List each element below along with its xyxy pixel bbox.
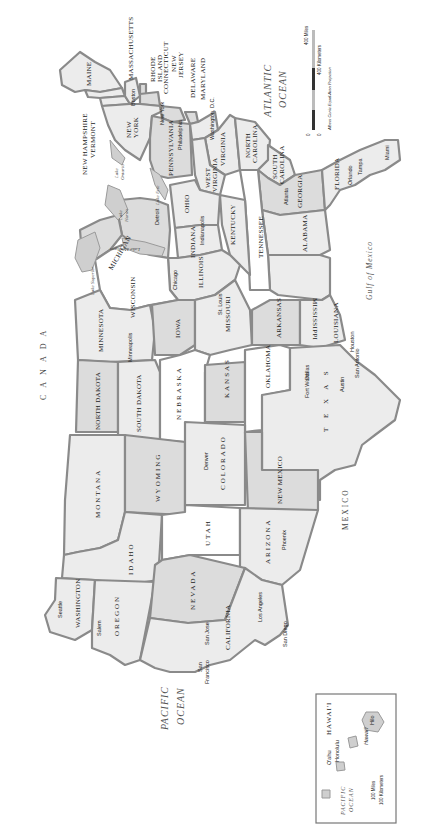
label-washington: WASHINGTON (75, 578, 82, 628)
city-los-angeles: Los Angeles (258, 592, 264, 622)
label-lake-superior: Lake Superior (90, 267, 95, 295)
label-mexico: MEXICO (342, 488, 350, 530)
hawaii-scale-km: 100 Kilometers (380, 775, 385, 805)
label-south-carolina-2: CAROLINA (279, 145, 286, 184)
city-seattle: Seattle (58, 601, 64, 618)
label-atlantic-2: OCEAN (278, 70, 288, 108)
label-lake-ontario-1: Lake (114, 168, 119, 178)
label-atlantic-1: ATLANTIC (263, 64, 273, 117)
city-indianapolis: Indianapolis (200, 216, 206, 245)
label-north-dakota: NORTH DAKOTA (95, 372, 102, 430)
city-philadelphia: Philadelphia (178, 120, 184, 150)
label-louisiana: LOUISIANA (333, 302, 340, 343)
label-colorado: COLORADO (220, 435, 227, 490)
label-mississippi: MISSISSIPPI (311, 298, 318, 340)
label-arkansas: ARKANSAS (276, 298, 283, 338)
label-ohio: OHIO (184, 194, 191, 213)
city-washington-dc: Washington, D.C. (210, 97, 216, 140)
label-kentucky: KENTUCKY (230, 204, 237, 245)
label-west-virginia-2: VIRGINIA (212, 158, 219, 192)
label-tennessee: TENNESSEE (258, 216, 265, 258)
label-florida: FLORIDA (334, 158, 341, 190)
label-south-dakota: SOUTH DAKOTA (136, 374, 143, 432)
label-gulf-of-mexico: Gulf of Mexico (366, 241, 374, 300)
label-california: CALIFORNIA (225, 605, 232, 650)
scale-miles-label: 400 Miles (305, 26, 310, 45)
scale-km-label: 400 Kilometers (318, 45, 323, 75)
city-phoenix: Phoenix (282, 530, 288, 550)
hawaii-honolulu: Honolulu (335, 740, 341, 762)
city-atlanta: Atlanta (284, 188, 290, 205)
label-lake-huron-1: Lake (118, 210, 123, 220)
city-boston: Boston (131, 89, 137, 106)
label-iowa: IOWA (175, 319, 182, 338)
label-new-york-2: YORK (133, 117, 140, 138)
label-new-hampshire: NEW HAMPSHIRE (82, 113, 89, 175)
label-virginia: VIRGINIA (220, 132, 227, 166)
hawaii-scale-miles: 100 Miles (372, 781, 377, 800)
label-pennsylvania: PENNSYLVANIA (168, 120, 175, 176)
label-north-carolina-2: CAROLINA (252, 124, 259, 163)
city-denver: Denver (204, 452, 210, 470)
hawaii-hilo: Hilo (370, 716, 376, 725)
label-minnesota: MINNESOTA (98, 309, 105, 352)
label-idaho: IDAHO (128, 542, 135, 575)
city-tampa: Tampa (358, 158, 364, 175)
label-kansas: KANSAS (224, 358, 231, 398)
label-nevada: NEVADA (190, 569, 197, 610)
label-connecticut: CONNECTICUT (163, 41, 170, 94)
label-lake-michigan: Lake Michigan (110, 247, 140, 252)
label-wyoming: WYOMING (155, 453, 162, 502)
label-arizona: ARIZONA (265, 519, 272, 565)
label-michigan: MICHIGAN (108, 235, 133, 272)
label-canada: CANADA (40, 324, 48, 400)
city-san-antonio: San Antonio (355, 348, 361, 378)
label-massachusetts: MASSACHUSETTS (128, 17, 135, 80)
city-fort-worth: Fort Worth (305, 372, 311, 398)
city-austin: Austin (340, 377, 346, 392)
hawaii-island-label: Hawai'i (364, 727, 370, 745)
city-san-diego: San Diego (283, 621, 289, 647)
label-maine: MAINE (86, 62, 93, 86)
city-new-york: New York (160, 102, 166, 125)
city-san-francisco-2: Francisco (205, 660, 211, 684)
label-new-jersey-2: JERSEY (178, 51, 185, 78)
city-miami: Miami (385, 145, 391, 160)
hawaii-title: HAWAI'I (326, 702, 333, 735)
label-montana: MONTANA (95, 469, 102, 518)
label-maryland: MARYLAND (200, 58, 207, 100)
city-chicago: Chicago (173, 270, 179, 290)
label-illinois: ILLINOIS (198, 256, 205, 288)
city-detroit: Detroit (155, 209, 161, 225)
label-lake-erie: Lake Erie (155, 185, 160, 205)
hawaii-ocean-2: OCEAN (348, 787, 354, 812)
city-san-francisco-1: San (198, 662, 204, 672)
city-minneapolis: Minneapolis (128, 333, 134, 362)
scale-projection: Albers Conic Equal-Area Projection (328, 67, 332, 130)
label-wisconsin: WISCONSIN (130, 276, 137, 318)
label-texas: T E X A S (323, 367, 330, 432)
hawaii-ocean-1: PACIFIC (340, 786, 346, 815)
label-alabama: ALABAMA (302, 215, 309, 253)
city-salem: Salem (97, 620, 103, 636)
label-utah: UTAH (205, 519, 212, 546)
label-indiana: INDIANA (190, 226, 197, 258)
label-pacific-1: PACIFIC (160, 686, 170, 730)
label-oklahoma: OKLAHOMA (265, 345, 272, 388)
label-nebraska: NEBRASKA (176, 366, 183, 420)
city-orlando: Orlando (348, 165, 354, 185)
hawaii-oahu: O'ahu (327, 750, 333, 765)
city-st-louis: St. Louis (218, 294, 224, 315)
label-lake-ontario-2: Ontario (120, 164, 125, 180)
label-vermont: VERMONT (90, 121, 97, 158)
city-san-jose: San Jose (205, 622, 211, 645)
label-delaware: DELAWARE (190, 58, 197, 98)
scale-zero-2: 0 (318, 133, 323, 136)
label-new-mexico: NEW MEXICO (277, 456, 284, 504)
label-lake-huron-2: Huron (124, 209, 129, 222)
label-oregon: OREGON (114, 595, 121, 636)
label-pacific-2: OCEAN (176, 687, 186, 725)
scale-zero-1: 0 (307, 133, 312, 136)
label-missouri: MISSOURI (225, 296, 232, 332)
label-georgia: GEORGIA (297, 174, 304, 208)
